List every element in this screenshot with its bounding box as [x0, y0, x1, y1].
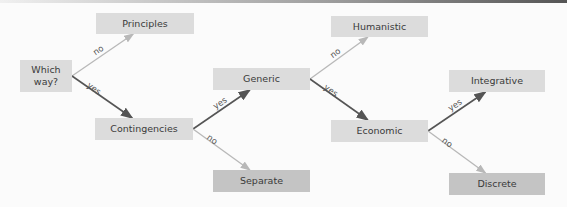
- edge-generic-to-humanistic: [310, 37, 368, 79]
- node-separate: Separate: [213, 170, 310, 192]
- node-integrative: Integrative: [449, 70, 545, 92]
- node-generic: Generic: [213, 68, 310, 90]
- node-which-way: Which way?: [20, 60, 72, 92]
- edge-contingencies-to-separate: [193, 129, 250, 170]
- edge-economic-to-discrete: [428, 131, 485, 173]
- node-principles: Principles: [96, 13, 194, 34]
- node-contingencies: Contingencies: [95, 118, 193, 140]
- node-discrete: Discrete: [449, 173, 545, 195]
- edge-root-to-principles: [72, 34, 133, 76]
- node-economic: Economic: [331, 120, 428, 142]
- edge-generic-to-economic: [310, 79, 368, 120]
- edge-root-to-contingencies: [72, 76, 132, 118]
- node-humanistic: Humanistic: [331, 16, 428, 37]
